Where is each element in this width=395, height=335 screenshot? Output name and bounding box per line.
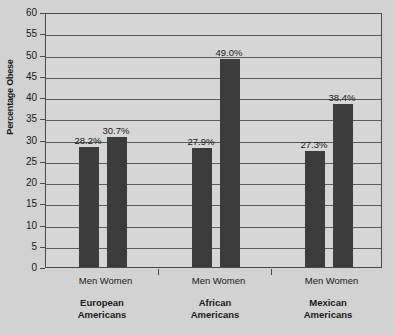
bar bbox=[79, 147, 99, 267]
gridline bbox=[46, 78, 381, 79]
gridline bbox=[46, 35, 381, 36]
bar-value-label: 30.7% bbox=[86, 126, 146, 136]
x-group-label-line1: European bbox=[80, 297, 124, 308]
bar-value-label: 27.3% bbox=[284, 140, 344, 150]
y-tick-label: 45 bbox=[13, 72, 37, 82]
bar-value-label: 27.9% bbox=[171, 137, 231, 147]
y-tick-label: 60 bbox=[13, 8, 37, 18]
x-group-label: MexicanAmericans bbox=[268, 297, 388, 321]
y-tick-label: 25 bbox=[13, 157, 37, 167]
bar-value-label: 28.2% bbox=[58, 136, 118, 146]
x-group-label-line1: Mexican bbox=[309, 297, 347, 308]
x-group-label: EuropeanAmericans bbox=[42, 297, 162, 321]
bar bbox=[192, 148, 212, 267]
y-tick-label: 35 bbox=[13, 114, 37, 124]
x-group-label-line2: Americans bbox=[304, 309, 353, 320]
x-group-separator-tick bbox=[158, 269, 159, 275]
x-group-label-line2: Americans bbox=[191, 309, 240, 320]
y-tick-label: 0 bbox=[13, 263, 37, 273]
x-sub-label: Women bbox=[199, 276, 259, 286]
y-tick-label: 10 bbox=[13, 221, 37, 231]
bar-value-label: 38.4% bbox=[312, 93, 372, 103]
gridline bbox=[46, 120, 381, 121]
bar-value-label: 49.0% bbox=[199, 48, 259, 58]
x-group-label: AfricanAmericans bbox=[155, 297, 275, 321]
x-group-label-line2: Americans bbox=[78, 309, 127, 320]
y-tick-label: 40 bbox=[13, 93, 37, 103]
y-tick-label: 5 bbox=[13, 242, 37, 252]
x-group-label-line1: African bbox=[199, 297, 232, 308]
y-tick-label: 15 bbox=[13, 199, 37, 209]
y-tick-label: 30 bbox=[13, 136, 37, 146]
x-group-separator-tick bbox=[271, 269, 272, 275]
y-tick-label: 20 bbox=[13, 178, 37, 188]
bar bbox=[305, 151, 325, 267]
bar bbox=[220, 59, 240, 267]
bar bbox=[107, 137, 127, 267]
y-tick-mark bbox=[40, 268, 45, 269]
y-tick-label: 55 bbox=[13, 29, 37, 39]
x-sub-label: Women bbox=[312, 276, 372, 286]
x-sub-label: Women bbox=[86, 276, 146, 286]
y-tick-label: 50 bbox=[13, 51, 37, 61]
chart-page: Percentage Obese 60555045403530252015105… bbox=[0, 0, 395, 335]
bar bbox=[333, 104, 353, 267]
